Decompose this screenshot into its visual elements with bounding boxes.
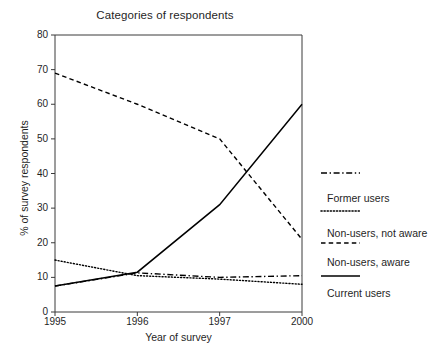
chart-figure: Categories of respondents % of survey re… — [0, 0, 443, 353]
legend-label-current-users: Current users — [327, 288, 391, 299]
legend-label-non-users-not-aware: Non-users, not aware — [327, 228, 427, 239]
chart-legend: Former usersNon-users, not awareNon-user… — [0, 0, 443, 353]
legend-label-non-users-aware: Non-users, aware — [327, 257, 410, 268]
legend-label-former-users: Former users — [327, 193, 389, 204]
